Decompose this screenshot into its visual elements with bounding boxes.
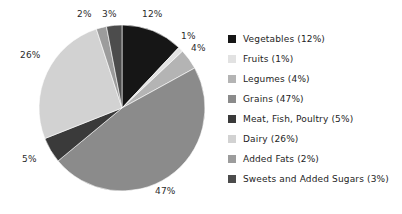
pie-slice-percent-label: 4% [191,43,206,53]
legend-swatch-icon [228,75,236,83]
chart-legend: Vegetables (12%)Fruits (1%)Legumes (4%)G… [228,29,402,189]
legend-item-grains[interactable]: Grains (47%) [228,89,402,109]
legend-item-meat-fish-poultry[interactable]: Meat, Fish, Poultry (5%) [228,109,402,129]
legend-item-sweets-and-added-sugars[interactable]: Sweets and Added Sugars (3%) [228,169,402,189]
pie-slice-group [39,25,205,191]
pie-slice-percent-label: 3% [102,9,117,19]
legend-swatch-icon [228,155,236,163]
legend-item-label: Fruits (1%) [243,54,293,64]
legend-item-label: Legumes (4%) [243,74,310,84]
legend-item-dairy[interactable]: Dairy (26%) [228,129,402,149]
legend-swatch-icon [228,115,236,123]
pie-slice-percent-label: 12% [142,9,163,19]
pie-slice-percent-label: 1% [181,31,196,41]
pie-slice-percent-label: 5% [22,154,37,164]
pie-chart-figure: 12%1%4%47%5%26%2%3% Vegetables (12%)Frui… [0,0,402,214]
pie-slice-percent-label: 47% [155,186,176,196]
legend-swatch-icon [228,175,236,183]
legend-item-label: Grains (47%) [243,94,304,104]
legend-item-legumes[interactable]: Legumes (4%) [228,69,402,89]
pie-slice-percent-label: 26% [20,50,41,60]
legend-item-label: Sweets and Added Sugars (3%) [243,174,389,184]
legend-swatch-icon [228,35,236,43]
legend-item-fruits[interactable]: Fruits (1%) [228,49,402,69]
legend-item-label: Dairy (26%) [243,134,299,144]
legend-swatch-icon [228,95,236,103]
legend-swatch-icon [228,135,236,143]
legend-item-added-fats[interactable]: Added Fats (2%) [228,149,402,169]
legend-item-vegetables[interactable]: Vegetables (12%) [228,29,402,49]
legend-item-label: Added Fats (2%) [243,154,319,164]
legend-item-label: Vegetables (12%) [243,34,325,44]
legend-item-label: Meat, Fish, Poultry (5%) [243,114,353,124]
pie-slice-percent-label: 2% [77,9,92,19]
legend-swatch-icon [228,55,236,63]
pie-chart-plot-area: 12%1%4%47%5%26%2%3% [0,0,220,214]
